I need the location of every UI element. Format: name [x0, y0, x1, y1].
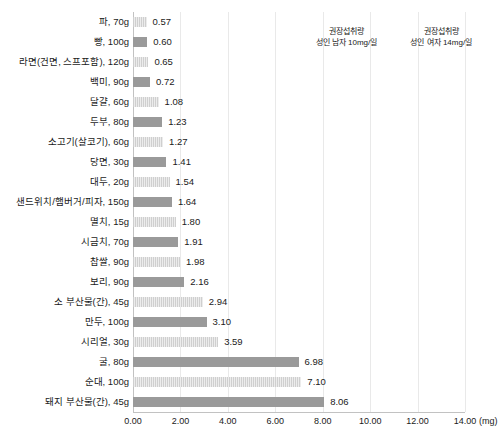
bar — [133, 397, 324, 407]
bar-value-label: 6.98 — [305, 352, 324, 372]
bar — [133, 277, 184, 287]
category-label: 달걀, 60g — [90, 92, 129, 112]
bar-track: 1.08 — [133, 92, 465, 112]
x-tick-label: 2.00 — [172, 416, 190, 426]
bar — [133, 377, 301, 387]
bar-value-label: 3.59 — [224, 332, 243, 352]
x-tick-label: 12.00 — [406, 416, 429, 426]
bar-track: 0.65 — [133, 52, 465, 72]
bar-row: 소 부산물(간), 45g2.94 — [0, 292, 489, 312]
bar — [133, 77, 150, 87]
category-label: 찹쌀, 90g — [90, 252, 129, 272]
bar — [133, 57, 148, 67]
bar-value-label: 8.06 — [330, 392, 349, 412]
bar-row: 찹쌀, 90g1.98 — [0, 252, 489, 272]
bar-track: 1.80 — [133, 212, 465, 232]
category-label: 빵, 100g — [94, 32, 129, 52]
bar-row: 달걀, 60g1.08 — [0, 92, 489, 112]
bar — [133, 177, 170, 187]
bar — [133, 297, 203, 307]
bar-value-label: 2.94 — [209, 292, 228, 312]
bar-track: 8.06 — [133, 392, 465, 412]
bar-track: 1.27 — [133, 132, 465, 152]
x-tick-label: 10.00 — [359, 416, 382, 426]
bar-track: 0.72 — [133, 72, 465, 92]
category-label: 돼지 부산물(간), 45g — [45, 392, 129, 412]
bar-row: 대두, 20g1.54 — [0, 172, 489, 192]
bar-row: 소고기(살코기), 60g1.27 — [0, 132, 489, 152]
bar-track: 1.23 — [133, 112, 465, 132]
bar-track: 2.94 — [133, 292, 465, 312]
bar-row: 두부, 80g1.23 — [0, 112, 489, 132]
bar-value-label: 2.16 — [190, 272, 209, 292]
bar-row: 만두, 100g3.10 — [0, 312, 489, 332]
bar-track: 6.98 — [133, 352, 465, 372]
bar-value-label: 0.57 — [153, 12, 172, 32]
bar-row: 굴, 80g6.98 — [0, 352, 489, 372]
bar — [133, 157, 166, 167]
bar-value-label: 1.98 — [186, 252, 205, 272]
bar — [133, 317, 207, 327]
bar-value-label: 0.60 — [153, 32, 172, 52]
bar-track: 3.59 — [133, 332, 465, 352]
category-label: 당면, 30g — [90, 152, 129, 172]
bar-value-label: 1.64 — [178, 192, 197, 212]
bar-row: 보리, 90g2.16 — [0, 272, 489, 292]
bar — [133, 197, 172, 207]
bar — [133, 217, 176, 227]
category-label: 만두, 100g — [85, 312, 129, 332]
bar — [133, 137, 163, 147]
category-label: 굴, 80g — [99, 352, 129, 372]
category-label: 멸치, 15g — [90, 212, 129, 232]
bar-value-label: 1.27 — [169, 132, 188, 152]
bar-track: 1.54 — [133, 172, 465, 192]
bar-value-label: 1.23 — [168, 112, 187, 132]
bar-value-label: 3.10 — [213, 312, 232, 332]
recommended-intake-annotation: 권장섭취량성인 여자 14mg/일 — [410, 26, 472, 48]
bar-value-label: 0.72 — [156, 72, 175, 92]
recommended-intake-annotation: 권장섭취량성인 남자 10mg/일 — [316, 26, 378, 48]
bar-track: 3.10 — [133, 312, 465, 332]
category-label: 시리얼, 30g — [81, 332, 129, 352]
bar-value-label: 1.91 — [184, 232, 203, 252]
bar-row: 시리얼, 30g3.59 — [0, 332, 489, 352]
bar-track: 1.41 — [133, 152, 465, 172]
x-tick-label: 0.00 — [124, 416, 142, 426]
annotation-line-1: 권장섭취량 — [410, 26, 472, 37]
bar — [133, 97, 159, 107]
bar — [133, 357, 299, 367]
x-axis-line — [133, 412, 465, 413]
bar-rows: 파, 70g0.57빵, 100g0.60라면(건면, 스프포함), 120g0… — [0, 12, 489, 412]
bar-track: 1.98 — [133, 252, 465, 272]
category-label: 백미, 90g — [90, 72, 129, 92]
bar — [133, 337, 218, 347]
bar-value-label: 7.10 — [307, 372, 326, 392]
x-tick-label: 6.00 — [267, 416, 285, 426]
category-label: 보리, 90g — [90, 272, 129, 292]
bar — [133, 257, 180, 267]
bar-value-label: 1.54 — [176, 172, 195, 192]
category-label: 두부, 80g — [90, 112, 129, 132]
bar-value-label: 0.65 — [154, 52, 173, 72]
category-label: 시금치, 70g — [81, 232, 129, 252]
category-label: 파, 70g — [99, 12, 129, 32]
x-tick-label: 14.00 — [454, 416, 477, 426]
bar — [133, 117, 162, 127]
category-label: 라면(건면, 스프포함), 120g — [19, 52, 129, 72]
bar-track: 2.16 — [133, 272, 465, 292]
annotation-line-2: 성인 여자 14mg/일 — [410, 37, 472, 48]
bar-row: 백미, 90g0.72 — [0, 72, 489, 92]
bar — [133, 37, 147, 47]
bar-track: 1.64 — [133, 192, 465, 212]
bar-row: 시금치, 70g1.91 — [0, 232, 489, 252]
bar-track: 7.10 — [133, 372, 465, 392]
category-label: 소고기(살코기), 60g — [48, 132, 129, 152]
x-tick-label: 4.00 — [219, 416, 237, 426]
category-label: 순대, 100g — [85, 372, 129, 392]
x-axis-unit-label: (mg) — [479, 416, 498, 426]
category-label: 대두, 20g — [90, 172, 129, 192]
bar-row: 순대, 100g7.10 — [0, 372, 489, 392]
bar-row: 멸치, 15g1.80 — [0, 212, 489, 232]
x-tick-label: 8.00 — [314, 416, 332, 426]
